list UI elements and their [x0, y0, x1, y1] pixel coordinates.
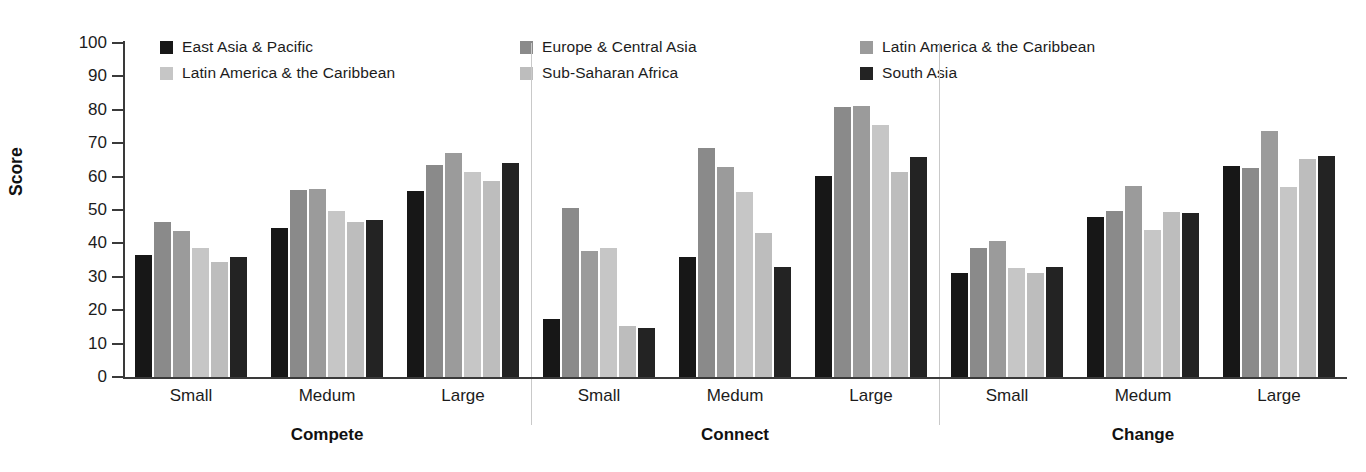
bar[interactable]	[679, 257, 696, 377]
bar[interactable]	[989, 241, 1006, 377]
x-category-label: Medum	[675, 386, 795, 406]
bar[interactable]	[698, 148, 715, 377]
y-tick-mark	[112, 176, 123, 178]
bar[interactable]	[638, 328, 655, 377]
bar[interactable]	[1087, 217, 1104, 377]
bar[interactable]	[1027, 273, 1044, 377]
bar-group	[135, 43, 247, 377]
x-section: SmallMedumLargeChange	[939, 379, 1347, 469]
bar[interactable]	[543, 319, 560, 377]
bar-group	[679, 43, 791, 377]
bar-group	[951, 43, 1063, 377]
bar-group	[1223, 43, 1335, 377]
bar[interactable]	[910, 157, 927, 377]
x-category-label: Small	[539, 386, 659, 406]
y-tick-mark	[112, 276, 123, 278]
x-axis-labels: SmallMedumLargeCompeteSmallMedumLargeCon…	[123, 379, 1347, 469]
bar[interactable]	[483, 181, 500, 377]
bar[interactable]	[407, 191, 424, 377]
bar[interactable]	[271, 228, 288, 377]
bar[interactable]	[328, 211, 345, 377]
y-tick-label: 100	[47, 32, 107, 53]
y-tick-label: 60	[47, 166, 107, 187]
x-category-label: Medum	[1083, 386, 1203, 406]
bar[interactable]	[1125, 186, 1142, 377]
bar[interactable]	[872, 125, 889, 377]
bar[interactable]	[1046, 267, 1063, 377]
bar[interactable]	[1261, 131, 1278, 377]
bar[interactable]	[1299, 159, 1316, 377]
bar[interactable]	[1182, 213, 1199, 377]
y-tick-mark	[112, 42, 123, 44]
y-tick-label: 50	[47, 199, 107, 220]
bar[interactable]	[562, 208, 579, 377]
bar[interactable]	[1144, 230, 1161, 377]
y-tick-mark	[112, 209, 123, 211]
bar[interactable]	[815, 176, 832, 377]
bar[interactable]	[970, 248, 987, 377]
bar-group	[815, 43, 927, 377]
bar[interactable]	[192, 248, 209, 377]
bar[interactable]	[891, 172, 908, 377]
bar-group	[407, 43, 519, 377]
bar[interactable]	[834, 107, 851, 377]
bar[interactable]	[1318, 156, 1335, 377]
y-tick-label: 20	[47, 299, 107, 320]
bar[interactable]	[1008, 268, 1025, 377]
x-category-label: Small	[131, 386, 251, 406]
y-axis-title: Score	[6, 147, 27, 196]
bar[interactable]	[135, 255, 152, 377]
y-tick-label: 40	[47, 232, 107, 253]
bar[interactable]	[717, 167, 734, 377]
bar[interactable]	[445, 153, 462, 377]
y-tick-mark	[112, 242, 123, 244]
bar[interactable]	[1106, 211, 1123, 377]
bar[interactable]	[1163, 212, 1180, 377]
y-tick-mark	[112, 75, 123, 77]
bar[interactable]	[853, 106, 870, 377]
bar[interactable]	[366, 220, 383, 377]
bar[interactable]	[736, 192, 753, 377]
x-category-label: Large	[403, 386, 523, 406]
y-tick-mark	[112, 309, 123, 311]
x-category-label: Large	[1219, 386, 1339, 406]
y-tick-mark	[112, 142, 123, 144]
y-tick-label: 0	[47, 366, 107, 387]
x-section: SmallMedumLargeConnect	[531, 379, 939, 469]
y-tick-label: 90	[47, 65, 107, 86]
bar[interactable]	[309, 189, 326, 377]
bar[interactable]	[755, 233, 772, 377]
bar[interactable]	[1280, 187, 1297, 377]
y-tick-mark	[112, 109, 123, 111]
bar[interactable]	[951, 273, 968, 377]
bar[interactable]	[619, 326, 636, 377]
chart-section-change	[939, 43, 1347, 377]
y-tick-label: 70	[47, 132, 107, 153]
bar[interactable]	[347, 222, 364, 377]
bar[interactable]	[502, 163, 519, 377]
bar[interactable]	[1223, 166, 1240, 377]
x-category-label: Small	[947, 386, 1067, 406]
bar[interactable]	[774, 267, 791, 377]
x-section-title: Connect	[531, 425, 939, 445]
bar[interactable]	[290, 190, 307, 377]
bar-group	[271, 43, 383, 377]
bar[interactable]	[1242, 168, 1259, 377]
x-section-title: Change	[939, 425, 1347, 445]
bar[interactable]	[600, 248, 617, 377]
y-tick-label: 80	[47, 99, 107, 120]
bar[interactable]	[211, 262, 228, 377]
y-tick-mark	[112, 343, 123, 345]
bar[interactable]	[426, 165, 443, 377]
bar[interactable]	[154, 222, 171, 377]
y-tick-label: 30	[47, 266, 107, 287]
plot-area	[123, 43, 1347, 377]
bar-group	[1087, 43, 1199, 377]
bar[interactable]	[173, 231, 190, 377]
bar[interactable]	[230, 257, 247, 377]
x-section: SmallMedumLargeCompete	[123, 379, 531, 469]
bar[interactable]	[581, 251, 598, 377]
x-category-label: Medum	[267, 386, 387, 406]
y-axis-ticks: 1009080706050403020100	[0, 0, 123, 472]
bar[interactable]	[464, 172, 481, 377]
